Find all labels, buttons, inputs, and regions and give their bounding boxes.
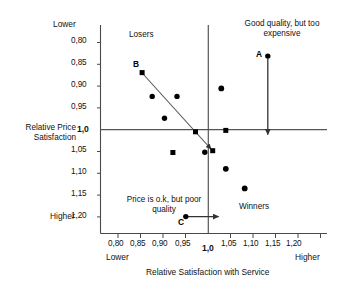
y-tick-label-090: 0,90 [71, 81, 87, 90]
annotation-line1: Good quality, but too [245, 19, 320, 28]
y-axis-low-label: Lower [53, 20, 76, 29]
data-point [170, 150, 175, 155]
trend-line [144, 75, 212, 150]
y-tick-label-105: 1,05 [71, 146, 87, 155]
annotation-line2: expensive [264, 29, 301, 38]
x-axis-low-label: Lower [106, 253, 129, 262]
annotation-price-ok-poor-quality: Price is o.k, but poor quality [110, 195, 218, 215]
y-tick-label-110: 1,10 [71, 168, 87, 177]
y-tick-label-085: 0,85 [71, 59, 87, 68]
annotation-good-quality-expensive: Good quality, but too expensive [227, 19, 337, 39]
y-axis-title-line2: Satisfaction [34, 133, 76, 142]
data-point-a [265, 53, 270, 58]
data-point [223, 128, 228, 133]
data-point [202, 150, 207, 155]
x-tick-label-080: 0,80 [108, 240, 124, 249]
x-tick-label-120: 1,20 [286, 240, 302, 249]
x-tick-label-090: 0,90 [152, 240, 168, 249]
x-axis-title: Relative Satisfaction with Service [146, 268, 269, 277]
x-tick-label-110: 1,10 [243, 240, 259, 249]
quadrant-label-losers: Losers [129, 31, 154, 40]
y-tick-label-120: 1,20 [71, 212, 87, 221]
data-point [150, 94, 155, 99]
y-tick-label-115: 1,15 [71, 190, 87, 199]
y-axis-title-line1: Relative Price [25, 123, 76, 132]
point-label-a: A [256, 50, 262, 59]
annotation-line1: Price is o.k, but poor [127, 195, 202, 204]
y-tick-label-100: 1,0 [77, 125, 89, 134]
point-label-b: B [133, 60, 139, 69]
x-tick-label-095: 0,95 [175, 240, 191, 249]
data-point [242, 186, 248, 192]
point-label-c: C [178, 218, 184, 227]
data-point [193, 129, 198, 134]
data-point-b [140, 70, 145, 75]
annotation-line2: quality [152, 205, 176, 214]
data-point [162, 116, 167, 121]
y-axis-title: Relative Price Satisfaction [6, 123, 76, 142]
x-axis-high-label: Higher [295, 253, 320, 262]
x-tick-label-115: 1,15 [265, 240, 281, 249]
data-point [218, 86, 224, 92]
y-tick-label-095: 0,95 [71, 103, 87, 112]
x-tick-label-085: 0,85 [130, 240, 146, 249]
data-point [174, 94, 179, 99]
x-tick-label-100: 1,0 [202, 244, 214, 253]
data-point [223, 166, 229, 172]
quadrant-label-winners: Winners [239, 203, 269, 212]
scatter-chart: Lower Higher Relative Price Satisfaction… [0, 0, 344, 285]
data-point [210, 148, 215, 153]
x-tick-label-105: 1,05 [221, 240, 237, 249]
y-tick-label-080: 0,80 [71, 37, 87, 46]
